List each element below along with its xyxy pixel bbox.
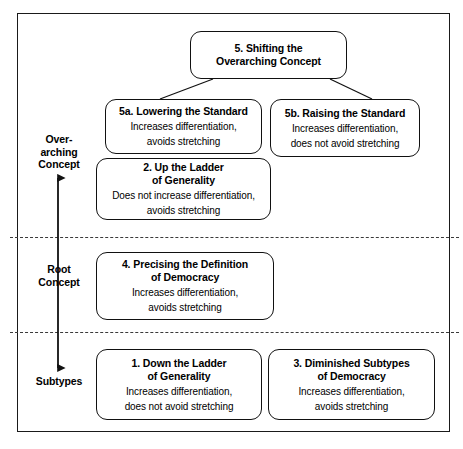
node-title-line-1: 5. Shifting the [235, 42, 303, 55]
node-sub-line-2: does not avoid stretching [125, 400, 234, 413]
node-sub-line-2: avoids stretching [148, 301, 221, 314]
band-label-line-3: Concept [20, 158, 98, 171]
node-title-line-1: 5b. Raising the Standard [285, 107, 406, 120]
concept-shift-diagram: Over- arching Concept Root Concept Subty… [0, 0, 463, 449]
band-label-line-2: arching [20, 146, 98, 159]
band-label-line-1: Subtypes [20, 375, 98, 388]
band-label-root-concept: Root Concept [20, 263, 98, 288]
node-sub-line-2: avoids stretching [315, 400, 388, 413]
node-sub-line-1: Increases differentiation, [298, 385, 404, 398]
node-sub-line-1: Increases differentiation, [132, 286, 238, 299]
band-label-line-2: Concept [20, 276, 98, 289]
node-sub-line-1: Does not increase differentiation, [112, 189, 255, 202]
node-sub-line-1: Increases differentiation, [130, 120, 236, 133]
node-down-the-ladder-of-generality[interactable]: 1. Down the Ladder of Generality Increas… [96, 349, 262, 420]
node-shifting-the-overarching-concept[interactable]: 5. Shifting the Overarching Concept [190, 31, 347, 79]
node-lowering-the-standard[interactable]: 5a. Lowering the Standard Increases diff… [105, 99, 262, 154]
node-title-line-2: of Generality [152, 174, 215, 187]
node-precising-the-definition-of-democracy[interactable]: 4. Precising the Definition of Democracy… [96, 252, 274, 320]
node-title-line-2: Overarching Concept [216, 55, 321, 68]
node-sub-line-1: Increases differentiation, [292, 122, 398, 135]
node-title-line-2: of Generality [148, 370, 211, 383]
node-title-line-1: 5a. Lowering the Standard [119, 105, 248, 118]
band-label-overarching-concept: Over- arching Concept [20, 133, 98, 171]
node-sub-line-2: does not avoid stretching [291, 137, 400, 150]
node-title-line-2: of Democracy [151, 271, 219, 284]
node-raising-the-standard[interactable]: 5b. Raising the Standard Increases diffe… [270, 99, 420, 157]
node-title-line-1: 1. Down the Ladder [131, 357, 226, 370]
band-divider-root-subtypes [10, 332, 459, 333]
node-title-line-1: 2. Up the Ladder [143, 161, 224, 174]
node-up-the-ladder-of-generality[interactable]: 2. Up the Ladder of Generality Does not … [96, 158, 271, 220]
node-sub-line-2: avoids stretching [147, 135, 220, 148]
node-title-line-1: 3. Diminished Subtypes [293, 357, 409, 370]
node-title-line-2: of Democracy [317, 370, 385, 383]
node-title-line-1: 4. Precising the Definition [122, 258, 248, 271]
band-label-line-1: Over- [20, 133, 98, 146]
band-label-line-1: Root [20, 263, 98, 276]
node-sub-line-2: avoids stretching [147, 204, 220, 217]
node-sub-line-1: Increases differentiation, [126, 385, 232, 398]
band-divider-overarching-root [10, 237, 459, 238]
band-label-subtypes: Subtypes [20, 375, 98, 388]
node-diminished-subtypes-of-democracy[interactable]: 3. Diminished Subtypes of Democracy Incr… [268, 349, 435, 420]
